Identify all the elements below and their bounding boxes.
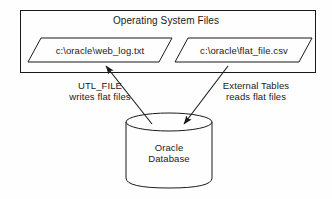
external-tables-flow-label: External Tables reads flat files: [196, 80, 316, 102]
utl-file-flow-line1: UTL_FILE: [78, 80, 122, 91]
diagram-canvas: Operating System Files c:\oracle\web_log…: [0, 0, 332, 199]
oracle-database-line1: Oracle: [155, 142, 184, 153]
external-tables-flow-line2: reads flat files: [196, 91, 316, 102]
oracle-database-cylinder-top: [126, 113, 212, 131]
utl-file-flow-label: UTL_FILE writes flat files: [28, 80, 172, 102]
external-tables-flow-line1: External Tables: [223, 80, 289, 91]
oracle-database-label: Oracle Database: [126, 142, 212, 164]
utl-file-flow-line2: writes flat files: [28, 91, 172, 102]
web-log-file-label: c:\oracle\web_log.txt: [28, 45, 172, 56]
flat-file-csv-label: c:\oracle\flat_file.csv: [176, 45, 312, 56]
operating-system-files-title: Operating System Files: [0, 15, 332, 26]
oracle-database-line2: Database: [126, 153, 212, 164]
